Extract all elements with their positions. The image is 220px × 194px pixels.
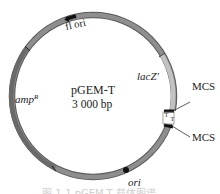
figure-caption: 图 1-1 pGEM-T 载体图谱 <box>42 187 156 194</box>
t-overhang-right: T <box>171 116 175 122</box>
ampR-label-sup: R <box>33 93 39 101</box>
plasmid-size: 3 000 bp <box>72 98 113 111</box>
ori-marker <box>123 167 129 173</box>
lacZ-label: lacZ' <box>137 70 160 82</box>
plasmid-name: pGEM-T <box>71 83 116 97</box>
ori-label: ori <box>128 176 141 188</box>
mcs-bottom-label: MCS <box>192 131 215 143</box>
ampR-segment <box>11 48 55 168</box>
t-overhang-left: T <box>165 112 169 118</box>
plasmid-map: fl ori lacZ' MCS MCS T T pGEM-T 3 000 bp… <box>0 0 220 194</box>
mcs-top-label: MCS <box>192 80 215 92</box>
mcs-bottom-marker <box>164 125 173 127</box>
ampR-label: ampR <box>15 93 39 105</box>
mcs-bottom-leader <box>172 126 190 137</box>
ampR-label-base: amp <box>15 93 34 105</box>
